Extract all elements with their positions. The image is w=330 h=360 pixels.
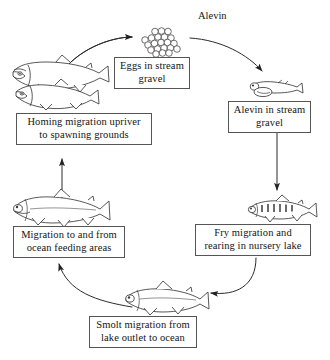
stage-box-fry-line1: Fry migration and bbox=[200, 227, 306, 240]
illustration-fry-with-parr-marks bbox=[248, 195, 317, 222]
stage-box-eggs: Eggs in stream gravel bbox=[114, 57, 190, 89]
stage-box-eggs-line1: Eggs in stream bbox=[119, 60, 185, 73]
illustration-smolt-fish bbox=[126, 281, 209, 315]
arrow-smolt-to-ocean bbox=[59, 264, 132, 307]
stage-box-homing-line1: Homing migration upriver bbox=[21, 116, 147, 129]
illustration-ocean-phase-salmon bbox=[14, 189, 110, 227]
stage-box-ocean-line1: Migration to and from bbox=[18, 229, 120, 242]
arrow-eggs-to-alevin bbox=[190, 38, 262, 71]
stage-box-smolt: Smolt migration from lake outlet to ocea… bbox=[89, 316, 197, 348]
stage-box-alevin-line2: gravel bbox=[233, 117, 306, 130]
alevin-title-label: Alevin bbox=[198, 10, 227, 22]
illustration-two-spawning-adult-salmon bbox=[13, 55, 109, 110]
arrow-fry-to-smolt bbox=[211, 258, 256, 294]
stage-box-eggs-line2: gravel bbox=[119, 73, 185, 86]
salmon-life-cycle-diagram: Alevin Eggs in stream gravel Alevin in s… bbox=[0, 0, 330, 360]
stage-box-alevin-line1: Alevin in stream bbox=[233, 104, 306, 117]
stage-box-homing-migration: Homing migration upriver to spawning gro… bbox=[16, 113, 152, 145]
stage-box-fry: Fry migration and rearing in nursery lak… bbox=[195, 224, 311, 256]
stage-box-fry-line2: rearing in nursery lake bbox=[200, 240, 306, 253]
illustration-alevin-with-yolk-sac bbox=[250, 80, 303, 97]
illustration-egg-cluster bbox=[142, 28, 181, 58]
stage-box-homing-line2: to spawning grounds bbox=[21, 129, 147, 142]
stage-box-smolt-line1: Smolt migration from bbox=[94, 319, 192, 332]
stage-box-ocean-line2: ocean feeding areas bbox=[18, 242, 120, 255]
stage-box-alevin: Alevin in stream gravel bbox=[228, 101, 311, 133]
stage-box-ocean-migration: Migration to and from ocean feeding area… bbox=[13, 226, 125, 258]
stage-box-smolt-line2: lake outlet to ocean bbox=[94, 332, 192, 345]
diagram-graphics-layer bbox=[0, 0, 330, 360]
